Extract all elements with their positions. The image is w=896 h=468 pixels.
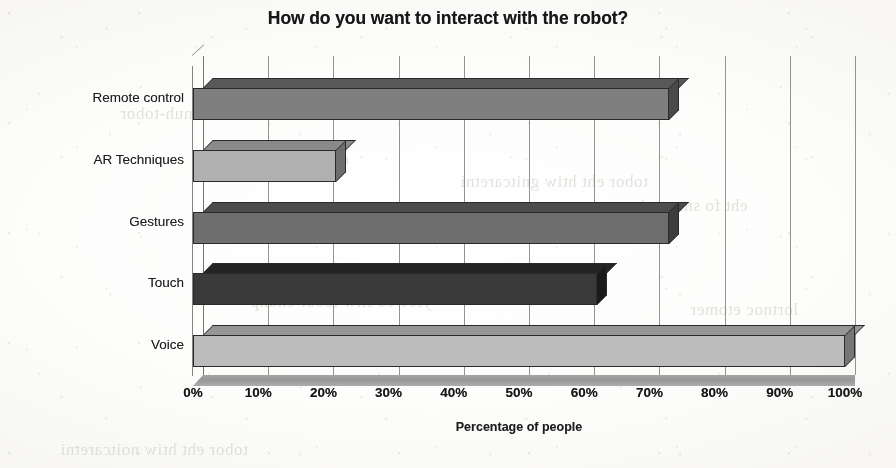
bar-gestures — [193, 202, 679, 244]
x-tick-label-0: 0% — [183, 385, 203, 400]
bar-top-face — [203, 263, 617, 273]
value-axis-tick-labels: 0%10%20%30%40%50%60%70%80%90%100% — [193, 385, 855, 407]
bar-front-face — [193, 88, 669, 120]
bar-voice — [193, 325, 855, 367]
ghost-text: tobor eht htiw noitcaretni — [60, 440, 248, 460]
bar-side-face — [597, 263, 607, 305]
bar-top-face — [203, 202, 689, 212]
bar-front-face — [193, 273, 597, 305]
x-tick-label-10: 10% — [245, 385, 272, 400]
category-label-ar-techniques: AR Techniques — [14, 152, 184, 167]
x-tick-label-100: 100% — [828, 385, 863, 400]
category-label-voice: Voice — [14, 337, 184, 352]
category-label-remote-control: Remote control — [14, 90, 184, 105]
bar-touch — [193, 263, 607, 305]
x-tick-label-40: 40% — [440, 385, 467, 400]
bar-front-face — [193, 150, 336, 182]
x-tick-label-50: 50% — [505, 385, 532, 400]
bar-remote-control — [193, 78, 679, 120]
bar-top-face — [203, 140, 356, 150]
x-tick-label-20: 20% — [310, 385, 337, 400]
x-tick-label-80: 80% — [701, 385, 728, 400]
x-tick-label-70: 70% — [636, 385, 663, 400]
bar-front-face — [193, 335, 845, 367]
x-tick-label-30: 30% — [375, 385, 402, 400]
bar-top-face — [203, 325, 865, 335]
chart-figure: snoitcaretni namuh-tobor dna secafretni … — [0, 0, 896, 468]
bar-ar-techniques — [193, 140, 346, 182]
category-label-gestures: Gestures — [14, 214, 184, 229]
bar-top-face — [203, 78, 689, 88]
bar-front-face — [193, 212, 669, 244]
x-axis-title: Percentage of people — [193, 420, 845, 434]
category-axis-labels: Remote controlAR TechniquesGesturesTouch… — [12, 66, 184, 375]
chart-title: How do you want to interact with the rob… — [0, 8, 896, 29]
category-label-touch: Touch — [14, 275, 184, 290]
x-tick-label-90: 90% — [766, 385, 793, 400]
x-tick-label-60: 60% — [571, 385, 598, 400]
plot-area — [193, 66, 845, 375]
